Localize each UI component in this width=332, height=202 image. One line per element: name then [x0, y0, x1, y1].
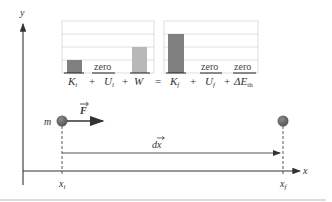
zero-label-u-initial: zero — [94, 61, 111, 72]
y-axis: y — [19, 7, 25, 185]
bar-chart-left-panel: zero — [62, 21, 154, 73]
operator-equals: = — [155, 75, 161, 87]
operator-plus-4: + — [224, 75, 230, 87]
operator-plus-2: + — [122, 75, 128, 87]
final-position-label: xf — [279, 178, 287, 191]
term-u-initial: Ui — [104, 75, 114, 89]
displacement-label: dx — [152, 139, 162, 150]
bar-k-initial — [67, 60, 82, 73]
force-label: F — [79, 105, 87, 116]
operator-plus-1: + — [89, 75, 95, 87]
initial-mass: m F — [44, 102, 103, 175]
x-axis-label: x — [302, 165, 308, 176]
term-u-final: Uf — [205, 75, 216, 89]
term-work: W — [134, 75, 144, 87]
zero-label-u-final: zero — [201, 61, 218, 72]
mass-label: m — [44, 116, 51, 127]
term-k-final: Kf — [169, 75, 180, 89]
final-mass — [278, 116, 289, 176]
initial-ball — [57, 116, 68, 127]
term-thermal-energy: ΔEth — [233, 75, 253, 89]
initial-position-label: xi — [58, 178, 65, 191]
displacement: dx — [62, 137, 280, 154]
bar-k-final — [168, 34, 184, 73]
energy-equation: Ki + Ui + W = Kf + Uf + ΔEth — [67, 75, 253, 89]
operator-plus-3: + — [190, 75, 196, 87]
x-axis: x — [23, 165, 308, 176]
zero-label-thermal: zero — [234, 61, 251, 72]
final-ball — [278, 116, 289, 127]
y-axis-label: y — [19, 7, 25, 18]
term-k-initial: Ki — [67, 75, 77, 89]
bar-chart-right-panel: zero zero — [164, 21, 258, 73]
energy-diagram: y x zero zero zero Ki — [0, 0, 332, 202]
bar-work — [132, 47, 147, 73]
